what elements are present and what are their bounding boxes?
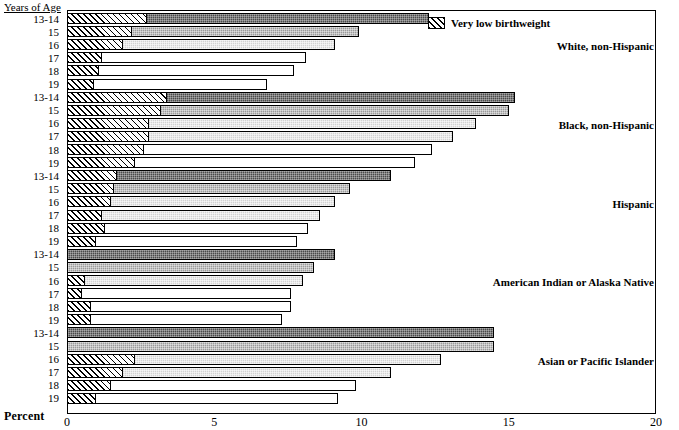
bar-segment-very-low-birthweight <box>67 223 105 234</box>
bar-row <box>67 52 306 63</box>
bar-row <box>67 65 294 76</box>
bar-row <box>67 223 308 234</box>
bar-row <box>67 262 314 273</box>
bar-row <box>67 13 429 24</box>
bar-row <box>67 341 494 352</box>
y-tick-label: 16 <box>48 197 59 208</box>
bar-segment-very-low-birthweight <box>67 39 123 50</box>
y-tick-label: 15 <box>48 184 59 195</box>
y-tick-label: 19 <box>48 158 59 169</box>
y-tick-label: 18 <box>48 223 59 234</box>
group-label: Black, non-Hispanic <box>559 119 654 131</box>
y-tick-label: 17 <box>48 131 59 142</box>
bar-segment-very-low-birthweight <box>67 210 102 221</box>
bar-segment-very-low-birthweight <box>67 52 102 63</box>
bar-segment-low-birthweight <box>67 314 282 325</box>
y-tick-label: 15 <box>48 27 59 38</box>
y-tick-label: 13-14 <box>33 328 59 339</box>
bar-segment-low-birthweight <box>67 210 320 221</box>
bar-segment-very-low-birthweight <box>67 393 96 404</box>
y-tick-label: 15 <box>48 262 59 273</box>
y-tick-label: 17 <box>48 53 59 64</box>
bar-row <box>67 144 432 155</box>
bar-row <box>67 301 291 312</box>
bar-segment-low-birthweight <box>67 275 303 286</box>
y-tick-label: 16 <box>48 118 59 129</box>
x-axis-title: Percent <box>4 409 45 424</box>
bar-segment-very-low-birthweight <box>67 275 85 286</box>
bar-segment-very-low-birthweight <box>67 170 117 181</box>
y-tick-label: 15 <box>48 105 59 116</box>
x-tick-label: 0 <box>47 416 87 428</box>
bar-segment-low-birthweight <box>67 262 314 273</box>
y-tick-label: 19 <box>48 315 59 326</box>
bar-segment-very-low-birthweight <box>67 183 114 194</box>
bar-row <box>67 118 476 129</box>
bar-segment-very-low-birthweight <box>67 354 135 365</box>
y-tick-label: 19 <box>48 393 59 404</box>
bar-row <box>67 79 267 90</box>
bar-segment-very-low-birthweight <box>67 301 91 312</box>
legend-label-very-low-birthweight: Very low birthweight <box>451 17 550 29</box>
group-label: Asian or Pacific Islander <box>538 355 654 367</box>
bar-row <box>67 105 509 116</box>
y-tick-label: 15 <box>48 341 59 352</box>
bar-row <box>67 26 359 37</box>
bar-segment-very-low-birthweight <box>67 380 111 391</box>
y-tick-label: 18 <box>48 380 59 391</box>
bar-segment-low-birthweight <box>67 288 291 299</box>
y-tick-label: 19 <box>48 79 59 90</box>
bar-row <box>67 196 335 207</box>
group-label: Hispanic <box>612 198 654 210</box>
y-tick-label: 18 <box>48 302 59 313</box>
bar-row <box>67 236 297 247</box>
bar-segment-low-birthweight <box>67 79 267 90</box>
y-tick-label: 16 <box>48 354 59 365</box>
y-tick-label: 17 <box>48 367 59 378</box>
bar-segment-very-low-birthweight <box>67 65 99 76</box>
bar-row <box>67 275 303 286</box>
bar-row <box>67 170 391 181</box>
bar-segment-very-low-birthweight <box>67 314 91 325</box>
bar-row <box>67 314 282 325</box>
bar-segment-very-low-birthweight <box>67 92 167 103</box>
bar-segment-low-birthweight <box>67 341 494 352</box>
y-tick-label: 17 <box>48 210 59 221</box>
y-tick-label: 13-14 <box>33 92 59 103</box>
bar-row <box>67 131 453 142</box>
bar-row <box>67 249 335 260</box>
y-tick-label: 16 <box>48 40 59 51</box>
y-tick-label: 13-14 <box>33 249 59 260</box>
bar-segment-very-low-birthweight <box>67 118 149 129</box>
group-label: American Indian or Alaska Native <box>493 276 654 288</box>
legend: Very low birthweight <box>428 17 550 29</box>
y-axis-tick-labels: 13-14151617181913-14151617181913-1415161… <box>0 10 63 414</box>
x-tick-label: 5 <box>194 416 234 428</box>
bar-segment-very-low-birthweight <box>67 26 132 37</box>
x-tick-label: 10 <box>342 416 382 428</box>
bar-row <box>67 380 356 391</box>
bar-segment-very-low-birthweight <box>67 13 147 24</box>
x-tick-label: 15 <box>489 416 529 428</box>
bar-segment-very-low-birthweight <box>67 157 135 168</box>
y-tick-label: 17 <box>48 289 59 300</box>
bar-row <box>67 157 415 168</box>
legend-swatch-very-low-birthweight <box>428 17 445 29</box>
bar-row <box>67 288 291 299</box>
bar-segment-low-birthweight <box>67 236 297 247</box>
bar-segment-very-low-birthweight <box>67 288 82 299</box>
y-tick-label: 18 <box>48 145 59 156</box>
bar-segment-very-low-birthweight <box>67 105 161 116</box>
bar-segment-low-birthweight <box>67 301 291 312</box>
bar-row <box>67 393 338 404</box>
bar-segment-very-low-birthweight <box>67 79 94 90</box>
bar-row <box>67 183 350 194</box>
bar-segment-very-low-birthweight <box>67 236 96 247</box>
bar-row <box>67 210 320 221</box>
y-tick-label: 18 <box>48 66 59 77</box>
chart-root: Years of Age 13-14151617181913-141516171… <box>0 0 679 430</box>
bar-segment-low-birthweight <box>67 52 306 63</box>
bar-segment-very-low-birthweight <box>67 367 123 378</box>
group-label: White, non-Hispanic <box>557 40 654 52</box>
bar-segment-very-low-birthweight <box>67 144 144 155</box>
